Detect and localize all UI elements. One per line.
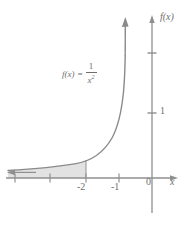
formula-equals-sign: = bbox=[78, 69, 83, 79]
y-tick-label-one: 1 bbox=[160, 105, 165, 116]
formula-denominator-exponent: 2 bbox=[92, 74, 95, 80]
y-axis-label: f(x) bbox=[160, 11, 174, 22]
math-figure: x f(x) 0 1 -2 -1 f(x) = 1 x2 bbox=[0, 0, 186, 225]
formula-function-name: f(x) bbox=[62, 69, 75, 79]
figure-canvas bbox=[0, 0, 186, 225]
y-axis-up-arrow-icon bbox=[149, 15, 154, 23]
formula-denominator: x2 bbox=[88, 73, 95, 85]
x-tick-label-neg1: -1 bbox=[111, 181, 119, 192]
function-formula-annotation: f(x) = 1 x2 bbox=[62, 62, 97, 85]
x-axis-label: x bbox=[170, 176, 174, 187]
formula-fraction: 1 x2 bbox=[86, 62, 97, 85]
formula-numerator: 1 bbox=[89, 62, 94, 72]
curve-up-arrow-icon bbox=[122, 17, 129, 27]
origin-tick-label: 0 bbox=[146, 176, 151, 187]
x-tick-label-neg2: -2 bbox=[77, 181, 85, 192]
